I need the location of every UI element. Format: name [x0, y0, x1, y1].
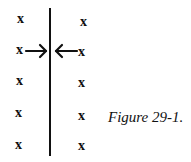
arrows-layer	[0, 0, 191, 162]
arrow-left-icon	[56, 45, 77, 57]
figure-caption: Figure 29-1.	[108, 109, 183, 126]
arrow-right-icon	[26, 45, 46, 57]
